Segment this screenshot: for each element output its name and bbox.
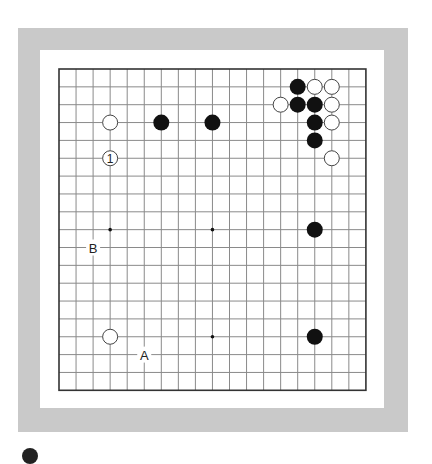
white-stone	[324, 115, 339, 130]
black-stone	[307, 132, 323, 148]
black-stone	[307, 115, 323, 131]
white-stone	[324, 79, 339, 94]
move-number-label: 1	[107, 152, 114, 166]
black-stone	[307, 329, 323, 345]
white-stone	[103, 329, 118, 344]
white-stone	[324, 97, 339, 112]
black-stone	[204, 115, 220, 131]
white-stone	[103, 115, 118, 130]
white-stone: 1	[103, 151, 118, 166]
white-stone	[324, 151, 339, 166]
point-label-b: B	[89, 241, 98, 256]
black-stone	[290, 79, 306, 95]
star-point	[211, 228, 215, 232]
black-stone	[307, 222, 323, 238]
star-point	[211, 335, 215, 339]
black-stone	[153, 115, 169, 131]
white-stone	[273, 97, 288, 112]
black-stone	[290, 97, 306, 113]
black-stone	[307, 97, 323, 113]
white-stone	[307, 79, 322, 94]
black-stone-icon	[22, 448, 38, 464]
star-point	[108, 228, 112, 232]
point-label-a: A	[140, 348, 149, 363]
